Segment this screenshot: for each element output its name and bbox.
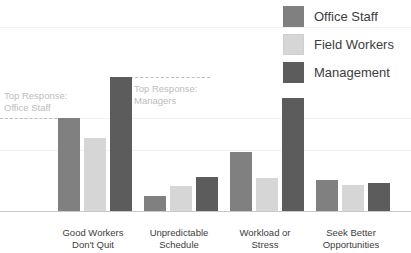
bar-field-workers-seek-better-opportunities[interactable] [342,185,364,211]
legend-item-management[interactable]: Management [283,60,394,84]
legend-swatch-management-icon [283,62,304,83]
category-label-seek-better-opportunities: Seek Better Opportunities [296,227,406,251]
bar-field-workers-unpredictable-schedule[interactable] [170,186,192,211]
bar-office-staff-workload-or-stress[interactable] [230,152,252,211]
bar-group-seek-better-opportunities [316,180,390,211]
bar-field-workers-good-workers[interactable] [84,138,106,211]
legend-item-office-staff[interactable]: Office Staff [283,4,394,28]
annotation-top-response-managers: Top Response: Managers [134,83,234,107]
bar-field-workers-workload-or-stress[interactable] [256,178,278,211]
bar-group-workload-or-stress [230,98,304,211]
legend-label-management: Management [314,65,390,80]
bar-chart: Good Workers Don't Quit Unpredictable Sc… [0,0,411,253]
legend-swatch-office-staff-icon [283,6,304,27]
legend-label-office-staff: Office Staff [314,9,378,24]
bar-office-staff-seek-better-opportunities[interactable] [316,180,338,211]
bar-group-unpredictable-schedule [144,177,218,211]
bar-management-seek-better-opportunities[interactable] [368,183,390,211]
bar-management-unpredictable-schedule[interactable] [196,177,218,211]
legend-item-field-workers[interactable]: Field Workers [283,32,394,56]
legend-label-field-workers: Field Workers [314,37,394,52]
bar-management-workload-or-stress[interactable] [282,98,304,211]
bar-management-good-workers[interactable] [110,77,132,211]
annotation-top-response-office-staff: Top Response: Office Staff [4,90,104,114]
bar-office-staff-unpredictable-schedule[interactable] [144,196,166,211]
bar-office-staff-good-workers[interactable] [58,118,80,211]
legend-swatch-field-workers-icon [283,34,304,55]
legend: Office Staff Field Workers Management [283,4,394,88]
